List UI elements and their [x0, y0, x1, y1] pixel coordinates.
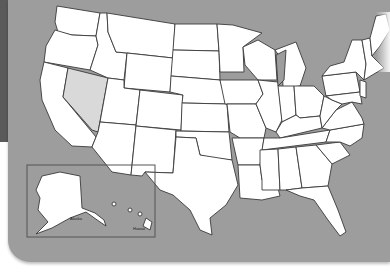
hawaii-island-3[interactable] [138, 212, 142, 216]
state-arkansas[interactable] [232, 138, 264, 165]
alaska-label: Alaska [70, 216, 83, 221]
state-florida[interactable] [286, 186, 346, 236]
state-ohio[interactable] [294, 86, 324, 118]
state-montana[interactable] [107, 13, 175, 58]
state-wisconsin[interactable] [243, 40, 277, 80]
hawaii-island-2[interactable] [128, 208, 132, 212]
state-colorado[interactable] [136, 90, 183, 130]
state-new-mexico[interactable] [131, 126, 176, 176]
state-new-jersey[interactable] [360, 80, 366, 98]
state-iowa[interactable] [220, 80, 263, 104]
state-south-dakota[interactable] [171, 50, 220, 80]
hawaii-label: Hawaii [133, 226, 145, 231]
hawaii-island-1[interactable] [112, 202, 116, 206]
state-arizona[interactable] [92, 122, 136, 175]
state-alaska[interactable] [36, 172, 106, 234]
us-map: Alaska Hawaii [0, 0, 390, 275]
state-washington[interactable] [55, 6, 100, 36]
state-north-dakota[interactable] [173, 24, 219, 51]
state-wyoming[interactable] [124, 53, 173, 92]
state-mississippi[interactable] [260, 149, 280, 190]
photo-glare [376, 12, 390, 72]
state-kansas[interactable] [181, 103, 229, 132]
